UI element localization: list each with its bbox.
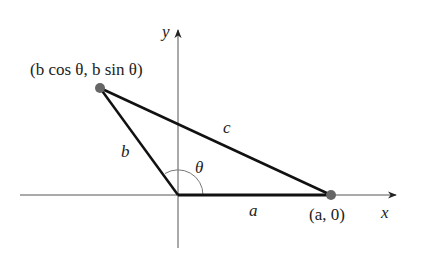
side-c [100, 88, 331, 195]
side-c-label: c [223, 118, 231, 137]
diagram-svg: (b cos θ, b sin θ) (a, 0) y x c b a θ [0, 0, 423, 260]
y-axis-label: y [160, 22, 170, 41]
point-a [326, 190, 336, 200]
point-b [95, 83, 105, 93]
point-a-label: (a, 0) [309, 205, 345, 224]
angle-theta-label: θ [195, 158, 203, 177]
side-b-label: b [121, 142, 130, 161]
side-b [100, 88, 178, 195]
point-b-label: (b cos θ, b sin θ) [30, 60, 143, 79]
x-axis-label: x [380, 203, 389, 222]
triangle-diagram: (b cos θ, b sin θ) (a, 0) y x c b a θ [0, 0, 423, 260]
side-a-label: a [249, 201, 258, 220]
